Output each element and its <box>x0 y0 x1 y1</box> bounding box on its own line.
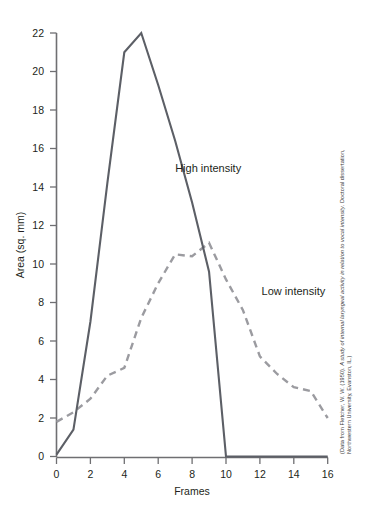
y-tick-label: 4 <box>38 373 44 385</box>
y-tick-label: 14 <box>32 181 44 193</box>
x-axis-title: Frames <box>174 485 210 497</box>
x-axis-ticks <box>57 458 328 465</box>
y-tick-label: 12 <box>32 219 44 231</box>
y-tick-label: 16 <box>32 142 44 154</box>
annotation-low-intensity: Low intensity <box>262 285 326 297</box>
series-high-intensity <box>57 33 328 457</box>
source-note-title: A study of internal laryngeal activity i… <box>339 206 345 366</box>
annotation-high-intensity: High intensity <box>175 162 242 174</box>
axes-group <box>57 33 329 458</box>
x-tick-label: 0 <box>54 468 60 480</box>
x-tick-label: 12 <box>254 468 266 480</box>
y-tick-label: 8 <box>38 296 44 308</box>
x-tick-label: 10 <box>220 468 232 480</box>
x-tick-label: 2 <box>87 468 93 480</box>
x-tick-label: 8 <box>189 468 195 480</box>
source-note-line-1: (Data from Fletcher, W. W. (1950). A stu… <box>339 149 345 454</box>
y-axis-tick-labels: 22 20 18 16 14 12 10 8 6 4 2 0 <box>32 27 44 463</box>
figure-container: 22 20 18 16 14 12 10 8 6 4 2 0 0 <box>0 0 377 519</box>
source-note: (Data from Fletcher, W. W. (1950). A stu… <box>332 0 377 519</box>
line-chart: 22 20 18 16 14 12 10 8 6 4 2 0 0 <box>0 0 377 519</box>
y-tick-label: 2 <box>38 412 44 424</box>
y-tick-label: 20 <box>32 65 44 77</box>
y-axis-title: Area (sq. mm) <box>14 212 26 279</box>
x-tick-label: 4 <box>121 468 127 480</box>
source-note-prefix: (Data from Fletcher, W. W. (1950). <box>339 366 345 454</box>
y-tick-label: 10 <box>32 258 44 270</box>
y-tick-label: 6 <box>38 335 44 347</box>
y-axis-ticks <box>50 33 57 457</box>
x-tick-label: 6 <box>155 468 161 480</box>
source-note-line-2: Northwestern University, Evanston, IL.) <box>346 355 352 454</box>
y-tick-label: 22 <box>32 27 44 39</box>
x-tick-label: 14 <box>288 468 300 480</box>
x-axis-tick-labels: 0 2 4 6 8 10 12 14 16 <box>54 468 334 480</box>
source-note-suffix: . Doctoral dissertation, <box>339 149 345 206</box>
y-tick-label: 0 <box>38 450 44 462</box>
y-tick-label: 18 <box>32 104 44 116</box>
